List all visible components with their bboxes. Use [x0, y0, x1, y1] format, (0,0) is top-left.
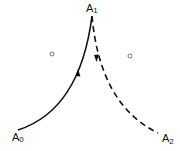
right-center-marker [128, 54, 132, 58]
solid-arc [18, 16, 92, 130]
diagram-canvas: A1 A0 A2 [0, 0, 180, 151]
dashed-arc [92, 16, 158, 133]
label-a2: A2 [162, 132, 174, 146]
arrow-up-icon [76, 69, 81, 77]
label-a0: A0 [12, 131, 24, 144]
label-a1: A1 [86, 2, 98, 15]
arrow-down-icon [94, 55, 99, 63]
left-center-marker [50, 52, 54, 56]
